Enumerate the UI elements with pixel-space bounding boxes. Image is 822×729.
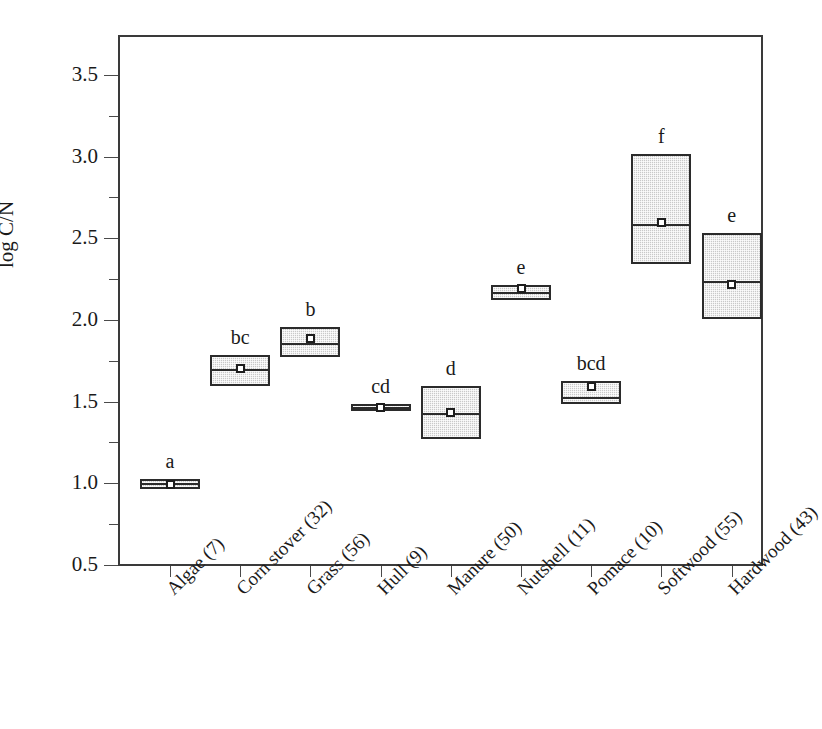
y-minor-tick bbox=[109, 116, 118, 117]
group-letter-1: bc bbox=[210, 326, 270, 349]
y-tick-1.5 bbox=[104, 402, 118, 403]
y-tick-label-3.5: 3.5 bbox=[38, 62, 98, 87]
group-letter-8: e bbox=[702, 204, 762, 227]
plot-frame bbox=[118, 35, 763, 566]
mean-marker-8 bbox=[727, 280, 736, 289]
mean-marker-3 bbox=[376, 403, 385, 412]
group-letter-5: e bbox=[491, 256, 551, 279]
y-tick-2.5 bbox=[104, 238, 118, 239]
box-8 bbox=[702, 233, 762, 320]
mean-marker-2 bbox=[306, 334, 315, 343]
y-tick-label-1.5: 1.5 bbox=[38, 389, 98, 414]
y-tick-3.0 bbox=[104, 157, 118, 158]
y-tick-1.0 bbox=[104, 483, 118, 484]
y-minor-tick bbox=[109, 197, 118, 198]
mean-marker-0 bbox=[166, 480, 175, 489]
group-letter-4: d bbox=[421, 357, 481, 380]
y-minor-tick bbox=[109, 524, 118, 525]
median-line-6 bbox=[561, 397, 621, 399]
group-letter-2: b bbox=[280, 298, 340, 321]
y-minor-tick bbox=[109, 442, 118, 443]
y-tick-label-3.0: 3.0 bbox=[38, 144, 98, 169]
mean-marker-1 bbox=[236, 364, 245, 373]
group-letter-6: bcd bbox=[561, 352, 621, 375]
mean-marker-4 bbox=[446, 408, 455, 417]
y-minor-tick bbox=[109, 361, 118, 362]
group-letter-0: a bbox=[140, 450, 200, 473]
y-tick-label-0.5: 0.5 bbox=[38, 552, 98, 577]
y-tick-2.0 bbox=[104, 320, 118, 321]
y-minor-tick bbox=[109, 279, 118, 280]
mean-marker-6 bbox=[587, 382, 596, 391]
y-tick-label-2.5: 2.5 bbox=[38, 225, 98, 250]
group-letter-7: f bbox=[631, 125, 691, 148]
y-tick-3.5 bbox=[104, 75, 118, 76]
y-tick-0.5 bbox=[104, 565, 118, 566]
mean-marker-5 bbox=[517, 284, 526, 293]
y-tick-label-2.0: 2.0 bbox=[38, 307, 98, 332]
box-7 bbox=[631, 154, 691, 263]
y-tick-label-1.0: 1.0 bbox=[38, 470, 98, 495]
mean-marker-7 bbox=[657, 218, 666, 227]
group-letter-3: cd bbox=[351, 375, 411, 398]
y-axis-title: log C/N bbox=[0, 201, 19, 268]
